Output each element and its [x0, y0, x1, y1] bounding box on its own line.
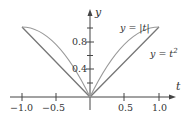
y-tick-label-0-4: 0.4	[72, 63, 87, 74]
y-axis-arrow-icon	[88, 9, 93, 16]
chart-svg: t y −1.0 −0.5 0.5 1.0 0.4 0.8 y = |t| y …	[0, 0, 186, 122]
annotation-t-squared: y = t2	[149, 47, 178, 59]
x-tick-label-minus-1: −1.0	[10, 102, 33, 113]
y-tick-label-0-8: 0.8	[72, 36, 87, 47]
x-tick-label-0-5: 0.5	[118, 102, 133, 113]
x-axis-arrow-icon	[169, 95, 176, 100]
chart: t y −1.0 −0.5 0.5 1.0 0.4 0.8 y = |t| y …	[0, 0, 186, 122]
annotation-abs-t: y = |t|	[119, 22, 150, 34]
x-axis-label: t	[176, 80, 181, 93]
y-axis-label: y	[94, 6, 102, 19]
x-tick-label-1: 1.0	[152, 102, 167, 113]
x-tick-label-minus-0-5: −0.5	[42, 102, 65, 113]
